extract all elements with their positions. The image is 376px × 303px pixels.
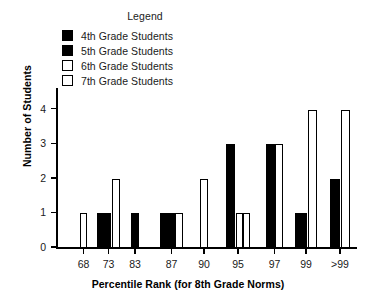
bar bbox=[175, 213, 183, 248]
y-axis-tick-label: 3 bbox=[30, 137, 46, 149]
bar bbox=[308, 110, 317, 248]
y-axis-tick-label: 0 bbox=[30, 241, 46, 253]
x-axis-tick-mark bbox=[171, 249, 172, 254]
bar bbox=[330, 179, 340, 248]
y-axis-tick-label: 4 bbox=[30, 103, 46, 115]
legend-title: Legend bbox=[0, 10, 290, 22]
bar bbox=[160, 213, 175, 248]
x-axis-title: Percentile Rank (for 8th Grade Norms) bbox=[0, 278, 376, 290]
x-axis-tick-mark bbox=[83, 249, 84, 254]
legend-swatch-icon bbox=[62, 60, 73, 71]
legend-swatch-icon bbox=[62, 45, 73, 56]
bar bbox=[226, 144, 235, 248]
legend-item-label: 6th Grade Students bbox=[81, 60, 173, 72]
bar bbox=[275, 144, 283, 248]
legend-item-label: 7th Grade Students bbox=[81, 75, 173, 87]
legend: 4th Grade Students5th Grade Students6th … bbox=[62, 28, 237, 88]
x-axis-tick-mark bbox=[274, 249, 275, 254]
bar bbox=[112, 179, 120, 248]
x-axis-tick-mark bbox=[237, 249, 238, 254]
x-axis-tick-mark bbox=[339, 249, 340, 254]
legend-item-label: 4th Grade Students bbox=[81, 30, 173, 42]
bar bbox=[236, 213, 243, 248]
legend-item: 7th Grade Students bbox=[62, 73, 237, 88]
x-axis-tick-label: >99 bbox=[320, 258, 360, 270]
bar bbox=[341, 110, 350, 248]
legend-swatch-icon bbox=[62, 75, 73, 86]
legend-item: 5th Grade Students bbox=[62, 43, 237, 58]
bar bbox=[295, 213, 307, 248]
x-axis-tick-label: 83 bbox=[115, 258, 155, 270]
y-axis-tick-label: 2 bbox=[30, 172, 46, 184]
bar bbox=[80, 213, 87, 248]
x-axis-tick-mark bbox=[134, 249, 135, 254]
x-axis-tick-label: 95 bbox=[218, 258, 258, 270]
plot-area bbox=[56, 88, 356, 248]
legend-item-label: 5th Grade Students bbox=[81, 45, 173, 57]
bar bbox=[200, 179, 208, 248]
legend-item: 4th Grade Students bbox=[62, 28, 237, 43]
bar bbox=[243, 213, 250, 248]
y-axis-title: Number of Students bbox=[21, 41, 33, 191]
y-axis-tick-label: 1 bbox=[30, 206, 46, 218]
legend-item: 6th Grade Students bbox=[62, 58, 237, 73]
x-axis-tick-mark bbox=[305, 249, 306, 254]
bar bbox=[266, 144, 275, 248]
bar bbox=[131, 213, 139, 248]
legend-swatch-icon bbox=[62, 30, 73, 41]
x-axis-tick-mark bbox=[108, 249, 109, 254]
bar bbox=[97, 213, 111, 248]
chart-figure: Legend 4th Grade Students5th Grade Stude… bbox=[0, 0, 376, 303]
x-axis-tick-mark bbox=[203, 249, 204, 254]
